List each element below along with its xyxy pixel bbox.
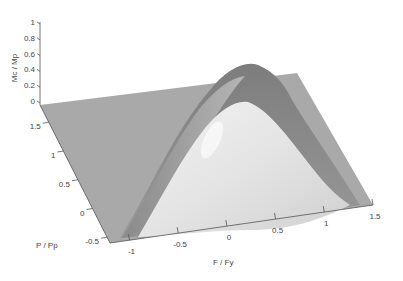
z-tick <box>37 85 40 87</box>
z-tick-label: 0 <box>31 97 36 106</box>
y-tick <box>87 209 93 210</box>
z-tick <box>37 22 40 24</box>
y-tick-label: -0.5 <box>85 237 99 246</box>
y-tick <box>72 180 78 181</box>
x-tick-label: 0.5 <box>272 226 284 235</box>
z-tick <box>37 101 40 103</box>
y-tick <box>43 122 49 123</box>
x-axis-label: F / Fy <box>213 258 233 267</box>
x-tick-label: -1 <box>128 247 136 256</box>
z-tick-label: 0.4 <box>24 65 36 74</box>
y-tick-label: 1 <box>51 151 56 160</box>
z-tick-label: 0.2 <box>24 81 36 90</box>
x-tick-label: 0 <box>227 233 232 242</box>
y-tick-label: 1.5 <box>30 122 42 131</box>
x-tick-label: 1 <box>324 219 329 228</box>
z-axis-label: Mc / Mp <box>10 53 19 82</box>
y-axis-label: P / Pp <box>36 241 58 250</box>
x-tick-label: -0.5 <box>173 240 187 249</box>
y-tick-label: 0.5 <box>59 180 71 189</box>
z-tick-label: 0.6 <box>24 50 36 59</box>
y-tick <box>101 237 107 238</box>
y-tick <box>57 151 63 152</box>
z-tick-label: 0.8 <box>24 34 36 43</box>
z-tick <box>37 54 40 56</box>
z-tick <box>37 38 40 40</box>
surface-plot: 00.20.40.60.81 -0.500.511.5 -1-0.500.511… <box>0 0 403 281</box>
z-tick-label: 1 <box>31 18 36 27</box>
y-tick-label: 0 <box>80 209 85 218</box>
x-tick-label: 1.5 <box>369 212 381 221</box>
z-tick <box>37 69 40 71</box>
